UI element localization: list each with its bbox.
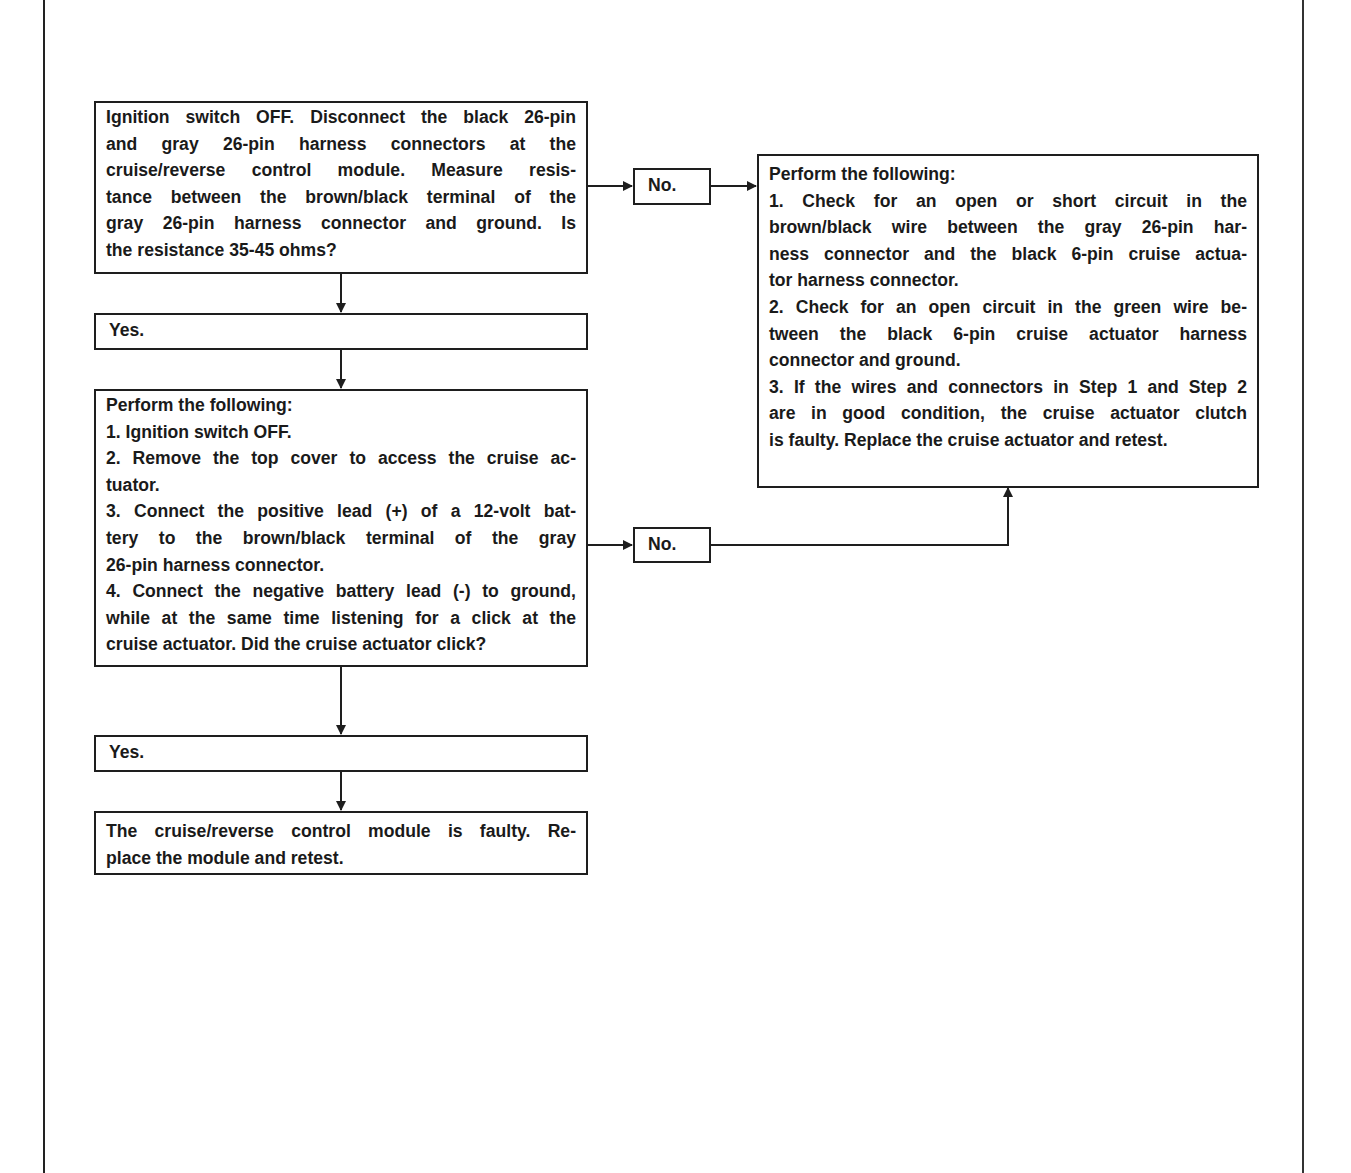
step1-no-label: No. [633,168,711,205]
wiring-line: connector and ground. [769,347,1247,374]
result-line: The cruise/reverse control module is fau… [106,818,576,845]
step2-line: while at the same time listening for a c… [106,605,576,632]
step1-line: Ignition switch OFF. Disconnect the blac… [106,104,576,131]
result-line: place the module and retest. [106,845,576,872]
step2-line: cruise actuator. Did the cruise actuator… [106,631,576,658]
wiring-line: tween the black 6-pin cruise actuator ha… [769,321,1247,348]
no-text: No. [648,534,676,554]
wiring-line: brown/black wire between the gray 26-pin… [769,214,1247,241]
result-module-faulty-box: The cruise/reverse control module is fau… [94,811,588,875]
step1-line: the resistance 35-45 ohms? [106,237,576,264]
wiring-line: 1. Check for an open or short circuit in… [769,188,1247,215]
no-text: No. [648,175,676,195]
step1-line: and gray 26-pin harness connectors at th… [106,131,576,158]
wiring-line: ness connector and the black 6-pin cruis… [769,241,1247,268]
step2-line: tuator. [106,472,576,499]
yes-text: Yes. [109,320,144,340]
step2-line: 2. Remove the top cover to access the cr… [106,445,576,472]
wiring-line: is faulty. Replace the cruise actuator a… [769,427,1247,454]
step2-yes-label: Yes. [94,735,588,772]
wiring-line: are in good condition, the cruise actuat… [769,400,1247,427]
step2-line: 1. Ignition switch OFF. [106,419,576,446]
step2-line: 26-pin harness connector. [106,552,576,579]
step2-line: tery to the brown/black terminal of the … [106,525,576,552]
wiring-line: tor harness connector. [769,267,1247,294]
step1-resistance-check-box: Ignition switch OFF. Disconnect the blac… [94,101,588,274]
yes-text: Yes. [109,742,144,762]
wiring-line: Perform the following: [769,161,1247,188]
step1-line: tance between the brown/black terminal o… [106,184,576,211]
step1-line: cruise/reverse control module. Measure r… [106,157,576,184]
step1-line: gray 26-pin harness connector and ground… [106,210,576,237]
step2-no-label: No. [633,527,711,563]
step2-line: 3. Connect the positive lead (+) of a 12… [106,498,576,525]
wiring-line: 3. If the wires and connectors in Step 1… [769,374,1247,401]
result-wiring-check-box: Perform the following: 1. Check for an o… [757,154,1259,488]
step2-line: Perform the following: [106,392,576,419]
step1-yes-label: Yes. [94,313,588,350]
step2-line: 4. Connect the negative battery lead (-)… [106,578,576,605]
step2-actuator-test-box: Perform the following: 1. Ignition switc… [94,389,588,667]
wiring-line: 2. Check for an open circuit in the gree… [769,294,1247,321]
